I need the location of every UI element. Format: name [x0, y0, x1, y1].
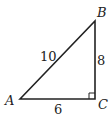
vertex-label-b: B	[96, 5, 107, 20]
side-label-ac: 6	[54, 102, 62, 117]
right-triangle-diagram: B A C 10 8 6	[0, 0, 112, 120]
side-label-ab: 10	[40, 49, 57, 64]
right-angle-marker	[89, 93, 95, 99]
triangle-abc	[20, 21, 95, 99]
side-label-bc: 8	[97, 53, 105, 68]
vertex-label-a: A	[4, 93, 14, 108]
vertex-label-c: C	[98, 97, 108, 112]
